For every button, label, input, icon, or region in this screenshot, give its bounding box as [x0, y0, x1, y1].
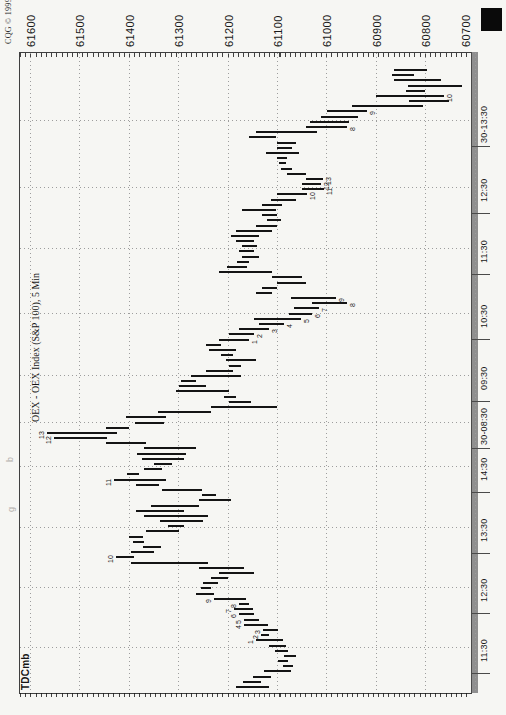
td-count-label: 9 — [205, 599, 212, 603]
time-axis-label: 11:30 — [479, 240, 489, 263]
td-count-label: 6 — [230, 615, 237, 619]
ohlc-bar — [244, 619, 259, 621]
ohlc-bar — [136, 484, 159, 486]
td-count-label: 11 — [105, 478, 112, 485]
ohlc-bar — [263, 629, 278, 631]
ohlc-bar — [289, 313, 311, 315]
time-grid-line — [20, 375, 471, 376]
time-grid-line — [20, 587, 471, 588]
ohlc-bar — [284, 655, 296, 657]
ohlc-bar — [254, 318, 301, 320]
ohlc-bar — [231, 235, 259, 237]
ohlc-bar — [196, 593, 214, 595]
ohlc-bar — [262, 204, 282, 206]
ohlc-bar — [142, 458, 184, 460]
ohlc-bar — [259, 323, 284, 325]
td-count-label: 13 — [325, 177, 332, 185]
ohlc-bar — [264, 670, 291, 672]
price-grid-line — [178, 53, 179, 692]
time-grid-line — [20, 313, 471, 314]
ohlc-bar — [211, 406, 276, 408]
time-grid-line — [20, 466, 471, 467]
ohlc-bar — [281, 168, 292, 170]
ohlc-bar — [116, 556, 134, 558]
ohlc-bar — [291, 297, 336, 299]
ohlc-bar — [306, 178, 323, 180]
price-axis-label: 61200 — [223, 14, 235, 47]
time-axis-label: 09:30 — [479, 366, 489, 390]
ohlc-bar — [256, 639, 283, 641]
ohlc-bar — [143, 546, 161, 548]
ohlc-bar — [242, 245, 257, 247]
ohlc-bar — [131, 562, 208, 564]
ohlc-bar — [236, 686, 269, 688]
td-count-label: 1 — [251, 340, 258, 344]
td-count-label: 7 — [225, 609, 232, 613]
ohlc-bar — [144, 468, 162, 470]
ohlc-bar — [271, 199, 296, 201]
ohlc-bar — [242, 256, 259, 258]
ohlc-bar — [54, 437, 107, 439]
time-axis-tick — [472, 274, 490, 275]
price-axis-label: 61300 — [173, 14, 185, 47]
ohlc-bar — [106, 442, 146, 444]
ohlc-bar — [278, 660, 288, 662]
td-count-label: 10 — [446, 94, 453, 102]
ohlc-bar — [239, 250, 254, 252]
price-axis-label: 60800 — [420, 14, 432, 47]
ohlc-bar — [408, 85, 461, 87]
td-count-label: 10 — [107, 556, 114, 564]
time-axis-tick — [472, 448, 490, 449]
ohlc-bar — [237, 261, 249, 263]
ohlc-bar — [302, 183, 321, 185]
ohlc-bar — [214, 598, 246, 600]
ohlc-bar — [261, 634, 269, 636]
time-axis-tick — [472, 673, 490, 674]
time-axis-tick — [472, 613, 490, 614]
ohlc-bar — [219, 339, 249, 341]
ohlc-bar — [47, 432, 117, 434]
time-grid-line — [20, 647, 471, 648]
top-border-ticks — [20, 53, 471, 57]
ohlc-bar — [179, 385, 206, 387]
ohlc-bar — [229, 365, 241, 367]
ohlc-bar — [306, 126, 347, 128]
time-axis-label: 30-13:30 — [479, 106, 489, 143]
ohlc-bar — [135, 422, 164, 424]
td-count-label: 6 — [314, 314, 321, 318]
td-count-label: 3 — [254, 630, 261, 634]
ohlc-bar — [239, 603, 249, 605]
ohlc-bar — [229, 401, 251, 403]
td-count-label: 3 — [271, 329, 278, 333]
ohlc-bar — [144, 515, 208, 517]
ohlc-bar — [181, 380, 196, 382]
time-grid-line — [20, 527, 471, 528]
ohlc-bar — [199, 567, 244, 569]
time-axis-label: 13:30 — [479, 518, 489, 542]
td-count-label: 8 — [349, 127, 356, 131]
ohlc-bar — [211, 577, 228, 579]
ohlc-bar — [321, 116, 357, 118]
price-axis-label: 61500 — [74, 14, 86, 47]
price-grid-line — [425, 53, 426, 692]
td-count-label: 2 — [252, 635, 259, 639]
ohlc-bar — [227, 266, 247, 268]
ohlc-bar — [131, 551, 154, 553]
ohlc-bar — [136, 510, 184, 512]
td-count-label: 8 — [349, 303, 356, 307]
ohlc-bar — [253, 676, 271, 678]
time-axis-label: 11:30 — [479, 639, 489, 662]
price-axis-label: 61000 — [321, 14, 333, 47]
cqg-copyright: CQG © 1999 — [4, 0, 13, 44]
price-axis-label: 60700 — [460, 14, 472, 47]
ohlc-bar — [160, 520, 203, 522]
ohlc-bar — [352, 105, 423, 107]
ohlc-bar — [279, 162, 286, 164]
price-grid-line — [228, 53, 229, 692]
ohlc-bar — [199, 499, 231, 501]
ohlc-bar — [256, 292, 272, 294]
time-axis-tick — [472, 146, 490, 147]
ohlc-bar — [191, 375, 241, 377]
time-axis-tick — [472, 553, 490, 554]
ohlc-bar — [206, 370, 233, 372]
